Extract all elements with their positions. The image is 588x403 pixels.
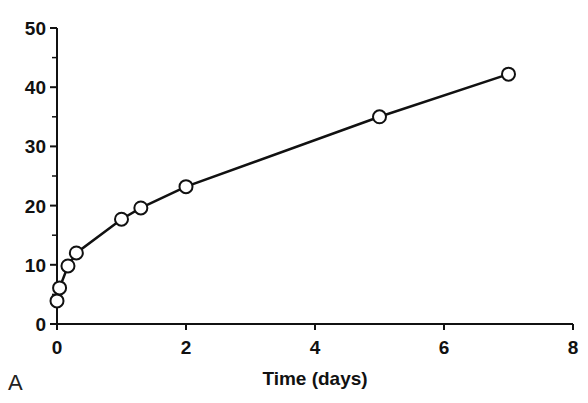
data-point-marker <box>53 281 66 294</box>
y-tick-label: 50 <box>25 18 46 39</box>
y-tick-label: 30 <box>25 136 46 157</box>
y-tick-label: 10 <box>25 255 46 276</box>
data-point-marker <box>502 68 515 81</box>
x-tick-label: 6 <box>439 337 450 358</box>
series-line <box>57 74 509 301</box>
line-chart: 01020304050 02468 Time (days) A <box>0 0 588 403</box>
x-tick-label: 2 <box>181 337 192 358</box>
y-tick-label: 0 <box>35 314 46 335</box>
data-series <box>51 68 516 308</box>
data-point-marker <box>373 110 386 123</box>
data-point-marker <box>61 259 74 272</box>
x-axis-ticks: 02468 <box>52 324 579 358</box>
data-point-marker <box>115 213 128 226</box>
x-tick-label: 4 <box>310 337 321 358</box>
data-point-marker <box>134 201 147 214</box>
data-point-marker <box>180 180 193 193</box>
x-tick-label: 8 <box>568 337 579 358</box>
axes <box>57 28 573 324</box>
x-axis-label: Time (days) <box>262 368 367 389</box>
x-tick-label: 0 <box>52 337 63 358</box>
data-point-marker <box>70 246 83 259</box>
panel-label: A <box>8 370 23 395</box>
data-point-marker <box>51 294 64 307</box>
y-tick-label: 40 <box>25 77 46 98</box>
y-tick-label: 20 <box>25 196 46 217</box>
